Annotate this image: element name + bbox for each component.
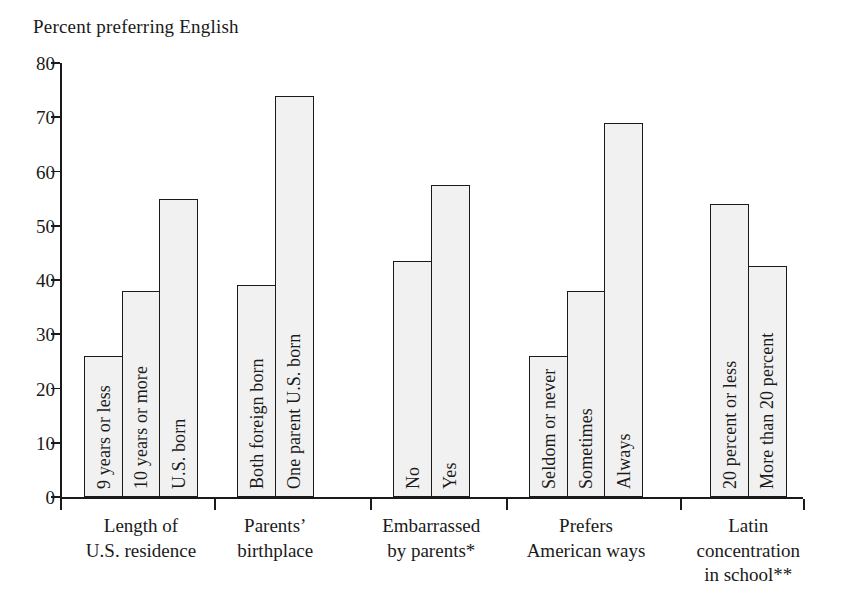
bar: Both foreign born [237, 285, 276, 497]
y-tick-label: 0 [46, 488, 56, 507]
y-axis-line [60, 63, 62, 497]
x-axis-line [60, 497, 803, 499]
bar-label: One parent U.S. born [285, 334, 303, 489]
y-tick-label: 30 [36, 325, 55, 344]
bar-label: Yes [441, 463, 459, 490]
bar-label: Sometimes [577, 408, 595, 489]
bar-label: U.S. born [170, 419, 188, 489]
y-tick-label: 10 [36, 433, 55, 452]
x-separator-tick [370, 499, 372, 510]
x-separator-tick [803, 499, 805, 510]
bar: Yes [431, 185, 470, 497]
bar: 10 years or more [122, 291, 161, 497]
y-tick-label: 70 [36, 108, 55, 127]
bar-label: 10 years or more [132, 366, 150, 489]
bar: Seldom or never [529, 356, 568, 497]
bar: Sometimes [567, 291, 606, 497]
y-tick-label: 60 [36, 162, 55, 181]
bar-label: 9 years or less [95, 385, 113, 489]
category-label: Latin concentration in school** [653, 514, 843, 588]
bar: 20 percent or less [710, 204, 749, 497]
bar: No [393, 261, 432, 497]
x-separator-tick [680, 499, 682, 510]
bar-label: 20 percent or less [721, 361, 739, 489]
x-separator-tick [60, 499, 62, 510]
bar-label: More than 20 percent [758, 333, 776, 489]
bar: One parent U.S. born [275, 96, 314, 497]
y-tick-label: 20 [36, 379, 55, 398]
x-separator-tick [214, 499, 216, 510]
y-tick-label: 50 [36, 216, 55, 235]
bar-label: No [404, 467, 422, 489]
bar: Always [604, 123, 643, 497]
y-tick-label: 80 [36, 54, 55, 73]
bar-chart: Percent preferring English 0102030405060… [0, 0, 851, 612]
bar-label: Seldom or never [540, 369, 558, 489]
chart-title: Percent preferring English [33, 16, 239, 38]
x-separator-tick [506, 499, 508, 510]
bar: 9 years or less [84, 356, 123, 497]
bar-label: Always [615, 433, 633, 489]
plot-area: 01020304050607080 9 years or less10 year… [60, 63, 803, 497]
bar: More than 20 percent [748, 266, 787, 497]
bar-label: Both foreign born [248, 358, 266, 489]
y-tick-label: 40 [36, 271, 55, 290]
bar: U.S. born [159, 199, 198, 497]
